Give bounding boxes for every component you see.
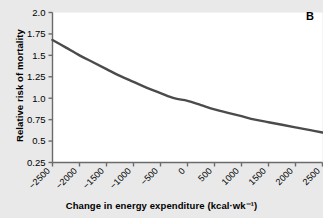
x-tick-label: −2500 [27, 166, 52, 191]
x-axis-tick-labels: −2500−2000−1500−1000−5000500100015002000… [27, 166, 322, 191]
x-tick-label: −1000 [108, 166, 133, 191]
x-tick-label: 1500 [247, 166, 268, 187]
figure-panel-b: 0.250.50.751.01.251.51.752.0 −2500−2000−… [0, 0, 323, 218]
x-tick-label: 500 [196, 166, 214, 184]
x-tick-label: 1000 [220, 166, 241, 187]
x-tick-label: 0 [176, 166, 187, 177]
y-tick-label: 1.25 [27, 71, 46, 82]
y-tick-label: 0.25 [27, 157, 46, 168]
plot-background [53, 13, 323, 163]
y-tick-label: 2.0 [32, 7, 45, 18]
y-tick-label: 1.0 [32, 93, 45, 104]
x-tick-label: 2500 [301, 166, 322, 187]
y-tick-label: 0.75 [27, 114, 46, 125]
y-axis-title: Relative risk of mortality [14, 11, 25, 161]
y-axis-tick-labels: 0.250.50.751.01.251.51.752.0 [27, 7, 46, 168]
x-tick-label: −2000 [54, 166, 79, 191]
chart-canvas: 0.250.50.751.01.251.51.752.0 −2500−2000−… [0, 0, 323, 218]
x-tick-label: −1500 [81, 166, 106, 191]
y-tick-label: 0.5 [32, 135, 45, 146]
y-tick-label: 1.5 [32, 50, 45, 61]
x-axis-title: Change in energy expenditure (kcal·wk⁻¹) [0, 200, 323, 211]
x-tick-label: −500 [139, 166, 160, 187]
x-tick-label: 2000 [274, 166, 295, 187]
y-tick-label: 1.75 [27, 28, 46, 39]
panel-label: B [306, 10, 314, 22]
